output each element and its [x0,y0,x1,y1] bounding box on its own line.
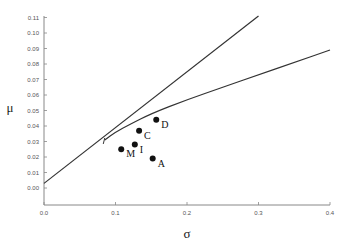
y-tick-label: 0.10 [27,30,39,36]
x-tick-label: 0.4 [326,210,335,216]
y-axis-title: μ [7,100,14,115]
point-label-C: C [144,130,151,141]
frontier-start-mark [103,138,105,144]
x-tick-label: 0.0 [40,210,49,216]
y-tick-label: 0.08 [27,61,39,67]
y-tick-label: 0.05 [27,108,39,114]
y-tick-label: 0.02 [27,154,39,160]
data-point-C [136,128,142,134]
x-tick-label: 0.1 [111,210,120,216]
x-tick-label: 0.2 [183,210,192,216]
data-point-I [132,142,138,148]
data-point-A [150,156,156,162]
points-layer: DCIMA [118,117,168,169]
data-point-D [153,117,159,123]
y-tick-label: 0.01 [27,170,39,176]
x-axis-title: σ [183,226,190,241]
y-tick-label: 0.03 [27,139,39,145]
y-tick-label: 0.06 [27,92,39,98]
point-label-M: M [126,148,135,159]
point-label-A: A [158,158,166,169]
point-label-I: I [140,144,143,155]
efficient-frontier-curve [105,50,330,140]
y-tick-label: 0.04 [27,123,39,129]
y-tick-label: 0.00 [27,185,39,191]
point-label-D: D [161,119,168,130]
y-tick-label: 0.07 [27,77,39,83]
series-layer [44,16,330,183]
data-point-M [118,146,124,152]
axes: 0.00.10.20.30.40.000.010.020.030.040.050… [27,15,335,217]
x-tick-label: 0.3 [254,210,263,216]
y-tick-label: 0.09 [27,46,39,52]
y-tick-label: 0.11 [28,15,40,21]
risk-return-chart: 0.00.10.20.30.40.000.010.020.030.040.050… [0,0,352,245]
